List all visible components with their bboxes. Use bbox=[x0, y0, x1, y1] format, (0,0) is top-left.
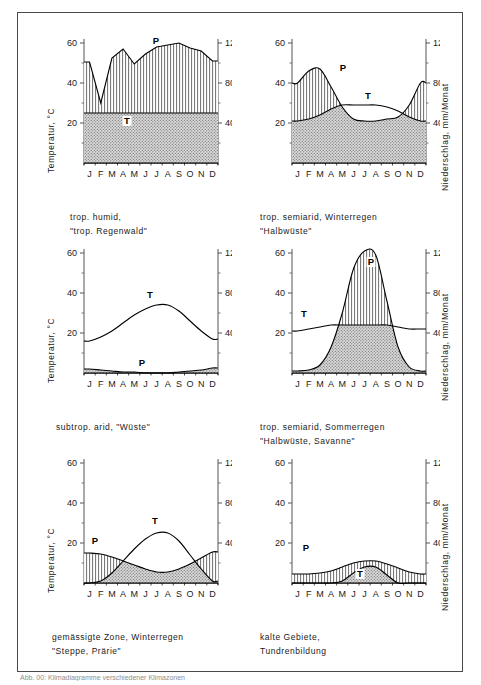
svg-text:M: M bbox=[131, 379, 139, 389]
svg-text:D: D bbox=[417, 169, 424, 179]
svg-text:S: S bbox=[176, 169, 182, 179]
panel-2-plot: 6012040802040JFMAMJJASONDTP bbox=[240, 31, 440, 209]
svg-text:80: 80 bbox=[225, 78, 232, 88]
panel-2-caption-line1: trop. semiarid, Winterregen bbox=[260, 211, 377, 224]
panel-6-plot: 6012040802040JFMAMJJASONDTP bbox=[240, 451, 440, 629]
svg-text:20: 20 bbox=[275, 328, 285, 338]
svg-text:T: T bbox=[124, 115, 130, 126]
svg-text:N: N bbox=[198, 379, 205, 389]
svg-text:J: J bbox=[351, 379, 356, 389]
svg-text:A: A bbox=[120, 379, 126, 389]
svg-text:N: N bbox=[198, 589, 205, 599]
svg-text:A: A bbox=[120, 169, 126, 179]
svg-text:A: A bbox=[165, 379, 171, 389]
svg-text:J: J bbox=[154, 379, 159, 389]
svg-text:20: 20 bbox=[67, 118, 77, 128]
svg-text:M: M bbox=[316, 589, 324, 599]
svg-text:20: 20 bbox=[67, 538, 77, 548]
panel-4-caption-line1: trop. semiarid, Sommerregen bbox=[260, 421, 385, 434]
svg-text:P: P bbox=[139, 357, 146, 368]
svg-text:20: 20 bbox=[275, 118, 285, 128]
svg-text:80: 80 bbox=[433, 288, 440, 298]
svg-text:M: M bbox=[108, 169, 116, 179]
svg-text:N: N bbox=[198, 169, 205, 179]
svg-text:J: J bbox=[87, 379, 92, 389]
svg-text:J: J bbox=[362, 589, 367, 599]
svg-text:S: S bbox=[176, 379, 182, 389]
svg-text:M: M bbox=[131, 169, 139, 179]
svg-text:A: A bbox=[165, 589, 171, 599]
panel-1-caption-line2: "trop. Regenwald" bbox=[70, 225, 147, 238]
svg-text:F: F bbox=[98, 589, 104, 599]
svg-text:120: 120 bbox=[225, 38, 232, 48]
svg-text:F: F bbox=[306, 379, 312, 389]
svg-text:40: 40 bbox=[433, 538, 440, 548]
panel-6-caption-line2: Tundrenbildung bbox=[260, 645, 326, 658]
panel-6-caption-line1: kalte Gebiete, bbox=[260, 631, 320, 644]
svg-text:60: 60 bbox=[67, 38, 77, 48]
climate-diagram-panel-3: Temperatur, °C 6012040802040JFMAMJJASOND… bbox=[32, 241, 232, 456]
svg-text:A: A bbox=[328, 169, 334, 179]
svg-text:J: J bbox=[362, 379, 367, 389]
svg-text:J: J bbox=[295, 169, 300, 179]
svg-text:M: M bbox=[316, 169, 324, 179]
svg-text:80: 80 bbox=[225, 498, 232, 508]
panel-5-plot: 6012040802040JFMAMJJASONDTP bbox=[32, 451, 232, 629]
svg-text:20: 20 bbox=[67, 328, 77, 338]
svg-text:T: T bbox=[152, 515, 158, 526]
svg-text:J: J bbox=[351, 169, 356, 179]
svg-text:D: D bbox=[417, 379, 424, 389]
svg-text:J: J bbox=[143, 379, 148, 389]
svg-text:40: 40 bbox=[225, 538, 232, 548]
svg-text:A: A bbox=[165, 169, 171, 179]
svg-text:S: S bbox=[384, 169, 390, 179]
svg-text:T: T bbox=[147, 289, 153, 300]
svg-text:F: F bbox=[306, 169, 312, 179]
svg-text:40: 40 bbox=[225, 118, 232, 128]
svg-text:120: 120 bbox=[433, 248, 440, 258]
svg-text:60: 60 bbox=[275, 38, 285, 48]
svg-text:M: M bbox=[339, 589, 347, 599]
svg-text:O: O bbox=[395, 169, 402, 179]
svg-text:80: 80 bbox=[433, 78, 440, 88]
svg-text:120: 120 bbox=[433, 38, 440, 48]
svg-text:J: J bbox=[143, 169, 148, 179]
svg-text:J: J bbox=[87, 589, 92, 599]
svg-text:80: 80 bbox=[225, 288, 232, 298]
svg-text:40: 40 bbox=[225, 328, 232, 338]
svg-text:60: 60 bbox=[275, 458, 285, 468]
svg-text:D: D bbox=[209, 169, 216, 179]
svg-text:S: S bbox=[384, 589, 390, 599]
panel-1-plot: 6012040802040JFMAMJJASONDTP bbox=[32, 31, 232, 209]
svg-text:D: D bbox=[209, 379, 216, 389]
svg-text:P: P bbox=[92, 535, 99, 546]
svg-text:40: 40 bbox=[433, 328, 440, 338]
panel-4-y-axis-right-label: Niederschlag, mm/Monat bbox=[440, 293, 450, 401]
svg-text:J: J bbox=[87, 169, 92, 179]
svg-text:A: A bbox=[120, 589, 126, 599]
svg-text:P: P bbox=[153, 35, 160, 46]
svg-text:120: 120 bbox=[225, 458, 232, 468]
svg-text:O: O bbox=[395, 379, 402, 389]
svg-text:N: N bbox=[406, 379, 413, 389]
svg-text:O: O bbox=[395, 589, 402, 599]
svg-text:O: O bbox=[187, 379, 194, 389]
svg-text:M: M bbox=[108, 589, 116, 599]
svg-text:S: S bbox=[384, 379, 390, 389]
panel-3-plot: 6012040802040JFMAMJJASONDTP bbox=[32, 241, 232, 419]
svg-text:40: 40 bbox=[433, 118, 440, 128]
svg-text:M: M bbox=[339, 169, 347, 179]
svg-text:J: J bbox=[154, 169, 159, 179]
svg-text:60: 60 bbox=[67, 248, 77, 258]
climate-diagram-panel-6: 6012040802040JFMAMJJASONDTP Niederschlag… bbox=[240, 451, 450, 666]
panel-2-caption-line2: "Halbwüste" bbox=[260, 225, 312, 238]
svg-text:A: A bbox=[328, 379, 334, 389]
climate-diagram-panel-4: 6012040802040JFMAMJJASONDTP Niederschlag… bbox=[240, 241, 450, 456]
svg-text:T: T bbox=[357, 568, 363, 579]
svg-text:N: N bbox=[406, 169, 413, 179]
panel-2-y-axis-right-label: Niederschlag, mm/Monat bbox=[440, 83, 450, 191]
svg-text:J: J bbox=[143, 589, 148, 599]
panel-1-caption-line1: trop. humid, bbox=[70, 211, 121, 224]
svg-text:J: J bbox=[154, 589, 159, 599]
svg-text:20: 20 bbox=[275, 538, 285, 548]
